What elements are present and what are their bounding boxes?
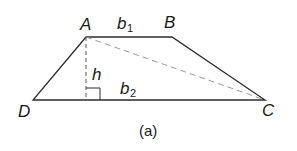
figure-caption: (a) <box>139 122 157 139</box>
trapezoid-outline <box>33 37 265 100</box>
vertex-label-a: A <box>79 15 91 34</box>
height-label: h <box>92 65 101 84</box>
vertex-label-c: C <box>262 101 275 120</box>
bottom-base-subscript: 2 <box>130 87 136 99</box>
trapezoid-diagram: A B C D b 1 h b 2 (a) <box>0 0 297 151</box>
vertex-label-b: B <box>164 13 175 32</box>
top-base-label: b <box>117 14 126 33</box>
diagonal-ac <box>86 37 265 100</box>
top-base-subscript: 1 <box>127 22 133 34</box>
bottom-base-label: b <box>120 79 129 98</box>
vertex-label-d: D <box>18 102 30 121</box>
right-angle-marker <box>86 88 100 100</box>
